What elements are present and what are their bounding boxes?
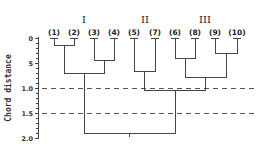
y-axis-ticks <box>35 38 38 138</box>
group-label-I: I <box>82 14 86 25</box>
y-tick-1-5: 1.5 <box>21 110 33 118</box>
leaf-label-6: (6) <box>169 28 181 37</box>
y-tick-1-0: 1.0 <box>21 85 33 93</box>
leaf-label-7: (7) <box>149 28 161 37</box>
y-axis-label: Chord distance <box>3 54 13 122</box>
leaf-label-2: (2) <box>68 28 80 37</box>
y-tick-0: 0 <box>28 35 33 43</box>
leaf-label-4: (4) <box>108 28 120 37</box>
leaf-label-9: (9) <box>209 28 221 37</box>
leaf-label-8: (8) <box>189 28 201 37</box>
leaf-label-3: (3) <box>88 28 100 37</box>
leaf-label-10: (10) <box>228 28 245 37</box>
group-label-III: III <box>199 14 211 25</box>
leaf-label-5: (5) <box>128 28 140 37</box>
dendrogram-chart: Chord distance 0 5 1.0 1.5 2.0 I II III <box>0 0 257 149</box>
y-tick-0-5: 5 <box>28 60 33 68</box>
group-label-II: II <box>141 14 149 25</box>
leaf-label-1: (1) <box>48 28 60 37</box>
y-tick-2-0: 2.0 <box>21 135 33 143</box>
